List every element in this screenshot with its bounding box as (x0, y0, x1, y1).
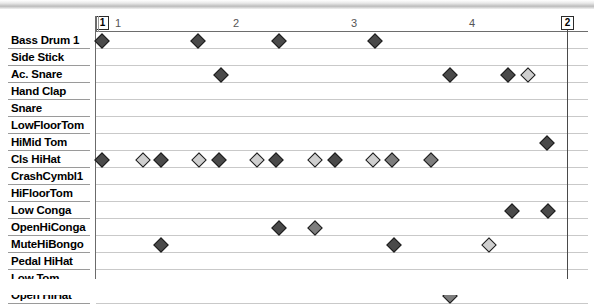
instrument-label-row[interactable]: Cls HiHat (8, 151, 90, 168)
instrument-label-row[interactable]: Low Conga (8, 202, 90, 219)
note-lane[interactable] (96, 185, 588, 202)
note-lane[interactable] (96, 236, 588, 253)
instrument-label-text: HiMid Tom (11, 136, 67, 148)
loop-end-line (567, 30, 568, 279)
bar-number: 4 (469, 17, 475, 29)
instrument-label-row[interactable]: Bass Drum 1 (8, 32, 90, 49)
bottom-padding (0, 279, 594, 295)
bar-ruler[interactable]: 123412 (90, 16, 594, 32)
note-lane[interactable] (96, 219, 588, 236)
instrument-label-text: MuteHiBongo (11, 238, 84, 250)
bar-number: 2 (233, 17, 239, 29)
instrument-label-text: CrashCymbl1 (11, 170, 83, 182)
note-lane[interactable] (96, 32, 588, 49)
note-lane[interactable] (96, 253, 588, 270)
instrument-label-row[interactable]: Side Stick (8, 49, 90, 66)
window-chrome-divider (0, 9, 594, 11)
note-lane[interactable] (96, 49, 588, 66)
instrument-label-row[interactable]: Snare (8, 100, 90, 117)
note-lane[interactable] (96, 100, 588, 117)
instrument-label-row[interactable]: Ac. Snare (8, 66, 90, 83)
bar-number: 3 (351, 17, 357, 29)
instrument-label-text: OpenHiConga (11, 221, 85, 233)
instrument-label-text: Ac. Snare (11, 68, 62, 80)
window-chrome-strip (0, 0, 594, 9)
instrument-label-text: Pedal HiHat (11, 255, 73, 267)
instrument-label-text: Side Stick (11, 51, 64, 63)
note-lane[interactable] (96, 117, 588, 134)
instrument-label-row[interactable]: OpenHiConga (8, 219, 90, 236)
instrument-label-row[interactable]: CrashCymbl1 (8, 168, 90, 185)
instrument-label-row[interactable]: Hand Clap (8, 83, 90, 100)
note-lane[interactable] (96, 168, 588, 185)
note-grid[interactable]: 123412 (90, 16, 594, 279)
instrument-label-row[interactable]: HiMid Tom (8, 134, 90, 151)
instrument-label-text: Hand Clap (11, 85, 66, 97)
note-lane[interactable] (96, 134, 588, 151)
instrument-label-text: Snare (11, 102, 42, 114)
instrument-label-text: Cls HiHat (11, 153, 60, 165)
instrument-label-row[interactable]: HiFloorTom (8, 185, 90, 202)
loop-end-marker[interactable]: 2 (561, 16, 574, 30)
instrument-label-row[interactable]: Pedal HiHat (8, 253, 90, 270)
instrument-label-text: Bass Drum 1 (11, 34, 79, 46)
instrument-label-column[interactable]: Bass Drum 1Side StickAc. SnareHand ClapS… (0, 16, 90, 279)
instrument-label-text: LowFloorTom (11, 119, 84, 131)
instrument-label-text: Low Conga (11, 204, 71, 216)
instrument-label-row[interactable]: LowFloorTom (8, 117, 90, 134)
note-lane[interactable] (96, 83, 588, 100)
instrument-label-text: HiFloorTom (11, 187, 73, 199)
instrument-label-row[interactable]: MuteHiBongo (8, 236, 90, 253)
bar-number: 1 (115, 17, 121, 29)
